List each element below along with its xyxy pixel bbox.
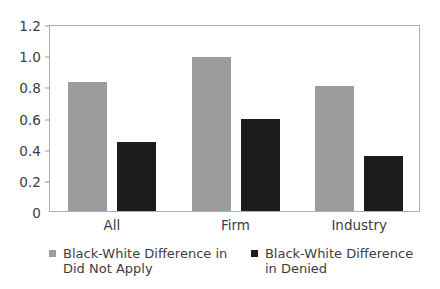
chart-legend: Black-White Difference in Did Not ApplyB… <box>49 246 440 276</box>
bar-industry-series-1 <box>364 156 403 211</box>
legend-label: Black-White Difference in Denied <box>265 246 422 276</box>
bar-industry-series-0 <box>315 86 354 211</box>
bar-all-series-1 <box>117 142 156 211</box>
legend-item[interactable]: Black-White Difference in Denied <box>251 246 422 276</box>
x-axis-category-label: Industry <box>331 217 387 233</box>
y-axis-tick-mark <box>45 150 50 151</box>
legend-swatch-icon <box>251 250 258 257</box>
y-axis-tick-mark <box>45 88 50 89</box>
bar-firm-series-1 <box>241 119 280 211</box>
legend-item[interactable]: Black-White Difference in Did Not Apply <box>49 246 233 276</box>
x-axis-category-label: All <box>103 217 120 233</box>
bar-firm-series-0 <box>192 57 231 211</box>
y-axis-tick-label: 0 <box>32 205 50 221</box>
x-axis-category-label: Firm <box>221 217 250 233</box>
y-axis-tick-mark <box>45 26 50 27</box>
y-axis-tick-mark <box>45 57 50 58</box>
legend-swatch-icon <box>49 250 56 257</box>
y-axis-tick-mark <box>45 119 50 120</box>
bar-chart-figure: 1.21.00.80.60.40.20 AllFirmIndustry Blac… <box>0 0 440 289</box>
bar-all-series-0 <box>68 82 107 211</box>
legend-label: Black-White Difference in Did Not Apply <box>63 246 233 276</box>
plot-area: 1.21.00.80.60.40.20 AllFirmIndustry <box>49 25 420 212</box>
y-axis-tick-mark <box>45 181 50 182</box>
